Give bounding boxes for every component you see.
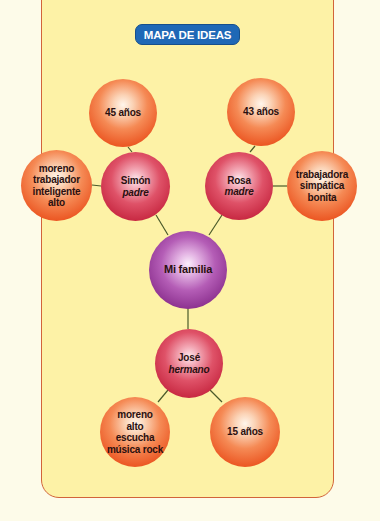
age-label: 15 años — [227, 426, 263, 438]
node-center: Mi familia — [149, 231, 227, 309]
link-simon-traits — [92, 185, 101, 186]
trait-label: trabajador — [33, 174, 80, 186]
link-jose-age — [210, 390, 222, 402]
node-rosa-age: 43 años — [227, 78, 295, 146]
age-label: 45 años — [105, 107, 141, 119]
person-name: Rosa — [227, 175, 251, 187]
node-simon-traits: moreno trabajador inteligente alto — [21, 150, 92, 221]
link-rosa-center — [209, 215, 222, 235]
age-label: 43 años — [243, 106, 279, 118]
trait-label: bonita — [308, 192, 337, 204]
trait-label: música rock — [107, 444, 163, 456]
person-name: José — [178, 352, 200, 364]
trait-label: alto — [127, 421, 144, 433]
node-rosa-traits: trabajadora simpática bonita — [287, 151, 357, 221]
trait-label: moreno — [39, 163, 74, 175]
node-jose-traits: moreno alto escucha música rock — [100, 397, 170, 467]
trait-label: simpática — [300, 180, 344, 192]
person-name: Simón — [121, 175, 151, 187]
node-simon-age: 45 años — [89, 79, 157, 147]
node-jose: José hermano — [155, 329, 223, 398]
person-role: madre — [224, 186, 253, 198]
person-role: hermano — [169, 364, 210, 376]
node-simon: Simón padre — [101, 152, 170, 221]
link-jose-traits — [158, 390, 168, 402]
trait-label: inteligente — [33, 186, 81, 198]
link-simon-center — [156, 215, 168, 235]
trait-label: alto — [48, 197, 65, 209]
node-rosa: Rosa madre — [205, 152, 273, 220]
link-rosa-age — [250, 146, 255, 152]
trait-label: escucha — [116, 432, 155, 444]
trait-label: moreno — [117, 409, 152, 421]
center-label: Mi familia — [164, 264, 212, 276]
node-jose-age: 15 años — [210, 397, 280, 467]
person-role: padre — [122, 187, 148, 199]
trait-label: trabajadora — [296, 169, 348, 181]
